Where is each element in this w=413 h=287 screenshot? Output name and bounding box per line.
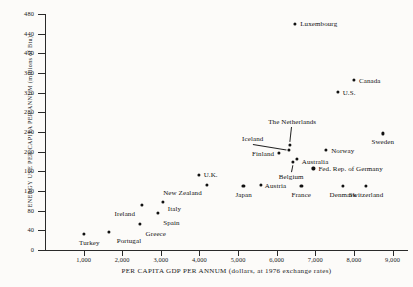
data-point-label: Spain <box>163 219 179 227</box>
y-axis-line <box>45 14 46 251</box>
data-point-label: Switzerland <box>349 191 384 199</box>
data-point-label: Iceland <box>242 135 263 143</box>
data-point-marker <box>325 149 328 152</box>
data-point-label: Australia <box>302 158 329 166</box>
y-tick-mark <box>38 112 45 113</box>
data-point-marker <box>294 22 297 25</box>
data-point-label: France <box>291 191 311 199</box>
data-point-marker <box>82 232 85 235</box>
x-tick-label: 3,000 <box>141 256 181 263</box>
data-point-label: Ireland <box>115 210 136 218</box>
data-point-label: Fed. Rep. of Germany <box>318 165 382 173</box>
y-tick-mark <box>38 152 45 153</box>
data-point-label: Portugal <box>117 237 142 245</box>
data-point-marker <box>197 174 200 177</box>
data-point-marker <box>287 149 290 152</box>
y-tick-mark <box>38 171 45 172</box>
y-tick-mark <box>38 230 45 231</box>
x-tick-label: 5,000 <box>218 256 258 263</box>
data-point-marker <box>107 230 110 233</box>
data-point-marker <box>277 151 280 154</box>
x-tick-label: 4,000 <box>179 256 219 263</box>
data-point-label: Italy <box>168 205 181 213</box>
data-point-marker <box>292 160 295 163</box>
data-point-marker <box>336 90 339 93</box>
data-point-marker <box>157 212 160 215</box>
data-point-label: Luxembourg <box>300 20 337 28</box>
y-tick-mark <box>38 34 45 35</box>
data-point-marker <box>161 200 164 203</box>
x-tick-label: 9,000 <box>373 256 413 263</box>
data-point-label: Canada <box>359 77 381 85</box>
data-point-label: New Zealand <box>163 189 202 197</box>
data-point-marker <box>312 167 315 170</box>
y-tick-mark <box>38 132 45 133</box>
data-point-marker <box>138 222 141 225</box>
x-tick-label: 8,000 <box>334 256 374 263</box>
x-tick-label: 7,000 <box>295 256 335 263</box>
data-point-marker <box>295 157 298 160</box>
x-tick-label: 6,000 <box>257 256 297 263</box>
data-point-label: The Netherlands <box>268 118 316 126</box>
data-point-marker <box>242 184 245 187</box>
data-point-marker <box>365 184 368 187</box>
scatter-plot-figure: 04080120160200240280320360400440480 1,00… <box>0 0 413 287</box>
data-point-marker <box>352 78 355 81</box>
y-tick-mark <box>38 250 45 251</box>
x-tick-label: 2,000 <box>102 256 142 263</box>
data-point-label: U.S. <box>343 89 356 97</box>
y-tick-mark <box>38 73 45 74</box>
label-leader-line <box>290 127 292 142</box>
y-tick-mark <box>38 191 45 192</box>
y-tick-label: 0 <box>12 246 34 253</box>
x-axis-title: PER CAPITA GDP PER ANNUM (dollars, at 19… <box>45 267 408 275</box>
data-point-label: Turkey <box>79 239 100 247</box>
y-tick-mark <box>38 211 45 212</box>
data-point-label: U.K. <box>204 171 218 179</box>
data-point-marker <box>300 184 303 187</box>
data-point-label: Japan <box>235 191 251 199</box>
data-point-marker <box>342 184 345 187</box>
label-leader-line <box>291 164 293 171</box>
data-point-marker <box>381 132 384 135</box>
data-point-marker <box>259 183 262 186</box>
y-axis-title: ENERGY USE PER CAPITA PER ANNUM (million… <box>26 7 33 237</box>
x-tick-label: 1,000 <box>64 256 104 263</box>
data-point-label: Finland <box>252 150 274 158</box>
data-point-label: Austria <box>265 182 286 190</box>
data-point-label: Norway <box>331 147 354 155</box>
y-tick-mark <box>38 14 45 15</box>
data-point-label: Greece <box>146 230 166 238</box>
data-point-label: Belgium <box>279 173 304 181</box>
data-point-marker <box>206 184 209 187</box>
y-tick-mark <box>38 93 45 94</box>
y-tick-mark <box>38 53 45 54</box>
data-point-marker <box>289 144 292 147</box>
data-point-marker <box>140 203 143 206</box>
data-point-label: Sweden <box>371 138 394 146</box>
